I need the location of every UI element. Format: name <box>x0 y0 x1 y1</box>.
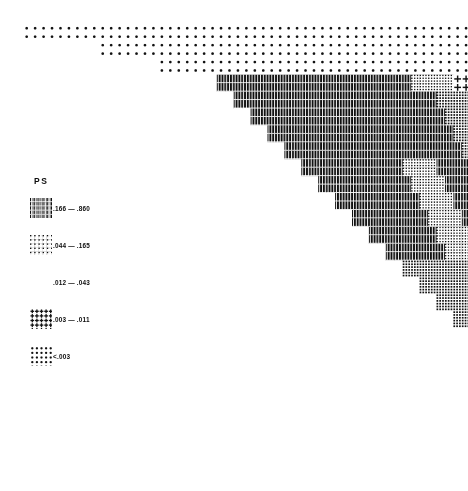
legend-label-bin4: .003 — .011 <box>53 316 90 323</box>
legend-label-bin2: .044 — .165 <box>53 242 90 249</box>
legend-swatch-fill <box>30 346 52 366</box>
legend-label-bin1: .166 — .860 <box>53 205 90 212</box>
legend-swatch-medium-grid <box>30 272 52 292</box>
legend-swatch-plus-marks <box>30 309 52 329</box>
legend-swatch-dense-vertical-bars <box>30 198 52 218</box>
legend-swatch-fill <box>30 309 52 329</box>
legend-swatch-sparse-dots <box>30 346 52 366</box>
legend-swatch-fill <box>30 198 52 218</box>
shade-plot-figure: PS .166 — .860 .044 — .165 .012 — .043 .… <box>0 0 468 491</box>
legend-item-bin3: .012 — .043 <box>30 267 150 297</box>
legend-item-bin2: .044 — .165 <box>30 230 150 260</box>
legend-swatch-fill <box>30 272 52 292</box>
legend-swatch-coarse-grid <box>30 235 52 255</box>
legend-title: PS <box>34 176 150 186</box>
legend-item-bin5: <.003 <box>30 341 150 371</box>
legend-label-bin3: .012 — .043 <box>53 279 90 286</box>
legend-item-bin1: .166 — .860 <box>30 193 150 223</box>
legend-label-bin5: <.003 <box>53 353 70 360</box>
legend: PS .166 — .860 .044 — .165 .012 — .043 .… <box>30 176 150 378</box>
legend-item-bin4: .003 — .011 <box>30 304 150 334</box>
legend-swatch-fill <box>30 235 52 255</box>
